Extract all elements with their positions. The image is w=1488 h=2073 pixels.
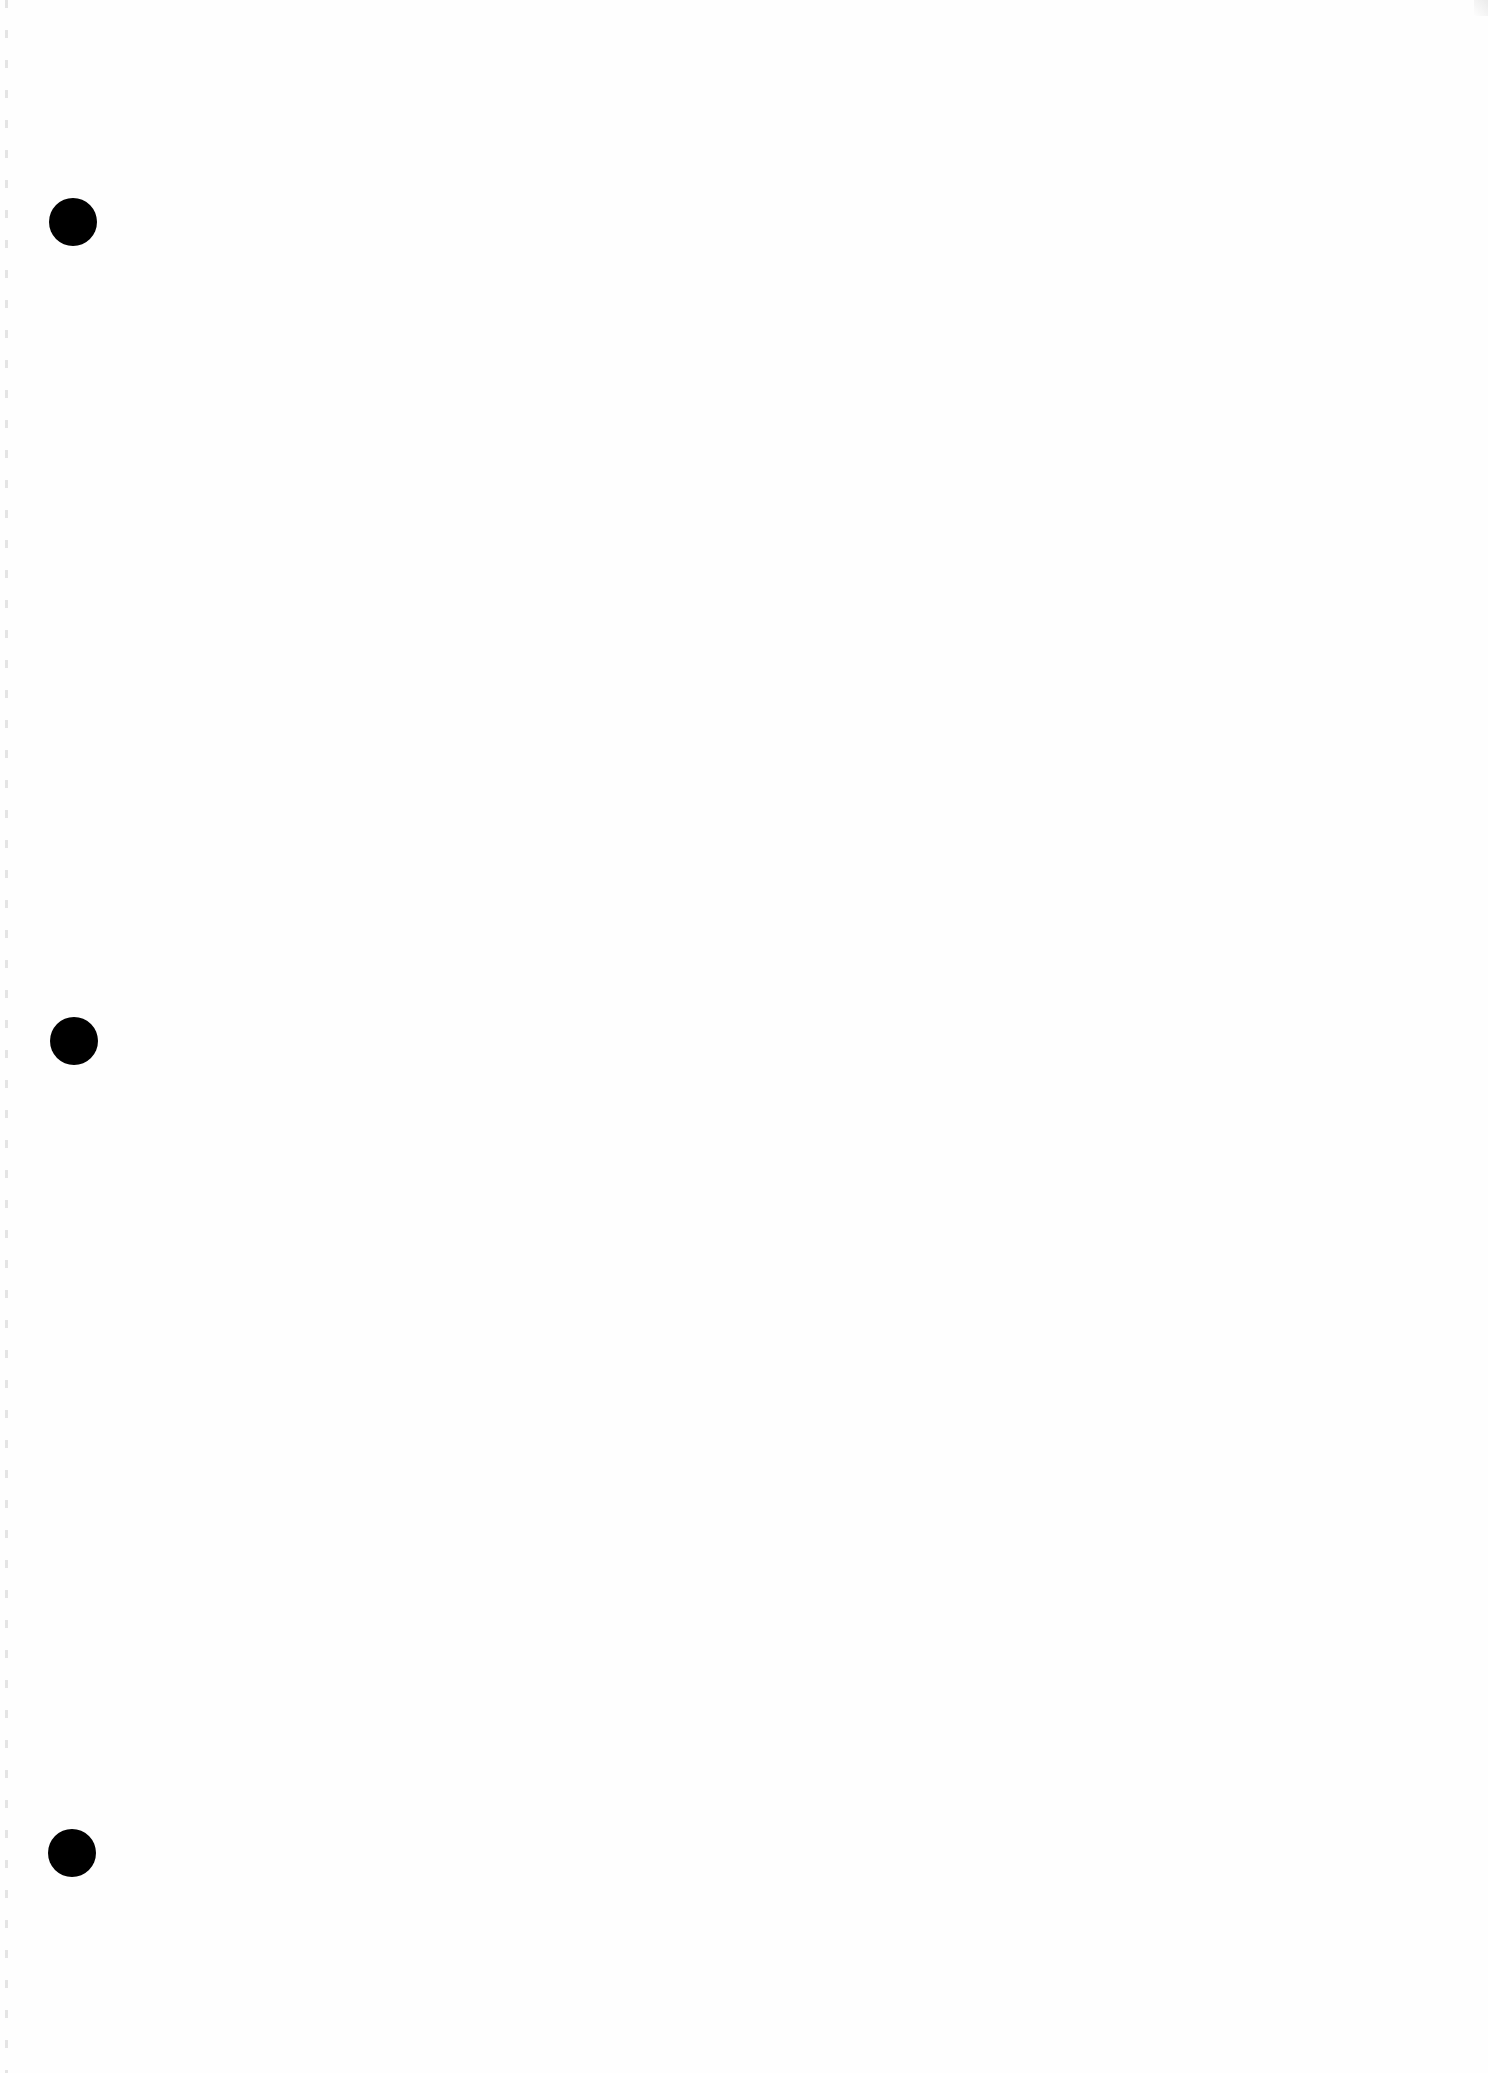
punch-hole-icon — [48, 1829, 96, 1877]
punch-hole-icon — [50, 1017, 98, 1065]
scanned-page — [0, 0, 1488, 2073]
corner-scan-shadow — [1474, 0, 1488, 16]
punch-hole-icon — [49, 198, 97, 246]
left-edge-scan-artifact — [5, 0, 8, 2073]
